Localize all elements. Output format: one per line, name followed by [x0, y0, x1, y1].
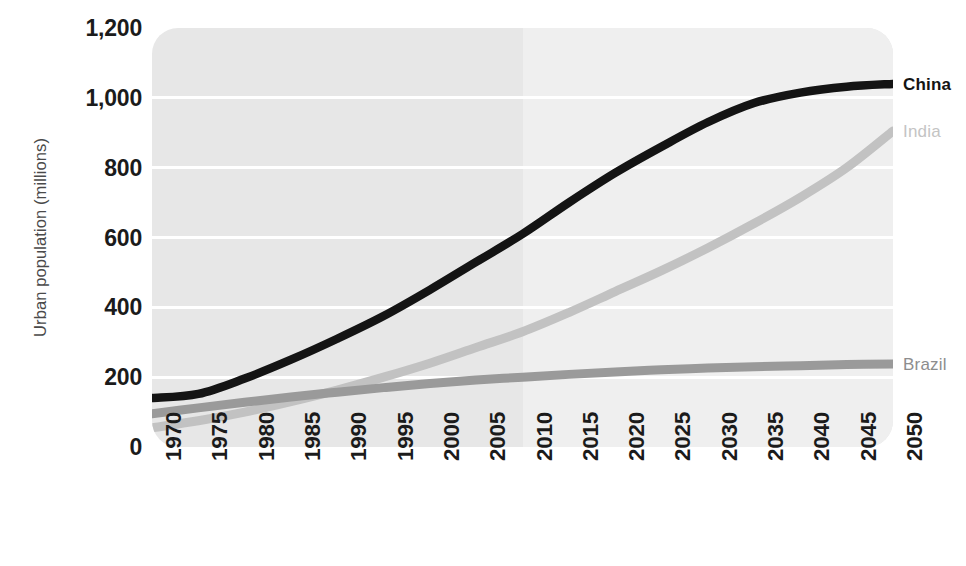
urban-population-line-chart: Urban population (millions) 1,2001,00080…	[0, 0, 966, 566]
x-axis-tick-labels: 1970197519801985199019952000200520102015…	[0, 0, 966, 566]
x-axis-tick-label: 1980	[254, 351, 280, 461]
x-axis-tick-label: 2000	[439, 351, 465, 461]
x-axis-tick-label: 2020	[624, 351, 650, 461]
x-axis-tick-label: 1985	[300, 351, 326, 461]
x-axis-tick-label: 1970	[161, 351, 187, 461]
x-axis-tick-label: 2005	[485, 351, 511, 461]
x-axis-tick-label: 2035	[763, 351, 789, 461]
x-axis-tick-label: 2030	[717, 351, 743, 461]
x-axis-tick-label: 1995	[393, 351, 419, 461]
x-axis-tick-label: 2010	[532, 351, 558, 461]
x-axis-tick-label: 2015	[578, 351, 604, 461]
x-axis-tick-label: 2045	[856, 351, 882, 461]
x-axis-tick-label: 2025	[670, 351, 696, 461]
series-label-india: India	[903, 122, 941, 142]
series-label-china: China	[903, 75, 951, 95]
series-label-brazil: Brazil	[903, 355, 947, 375]
x-axis-tick-label: 1990	[346, 351, 372, 461]
x-axis-tick-label: 2040	[809, 351, 835, 461]
x-axis-tick-label: 1975	[207, 351, 233, 461]
